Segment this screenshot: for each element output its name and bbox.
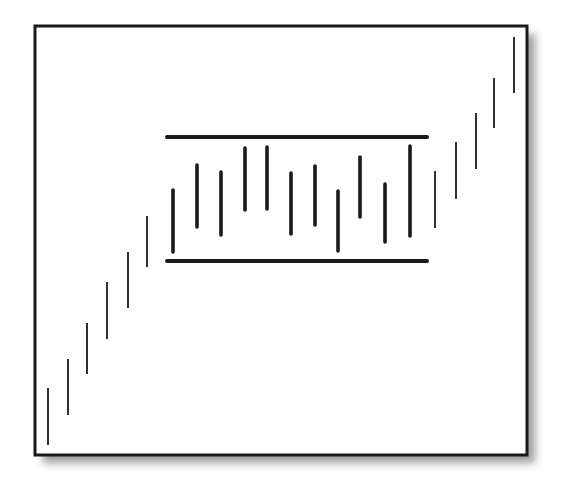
rectangle-pattern-chart: [0, 0, 561, 479]
chart-diagram: [0, 0, 561, 479]
frame-border: [35, 26, 527, 455]
chart-frame: [35, 26, 527, 455]
